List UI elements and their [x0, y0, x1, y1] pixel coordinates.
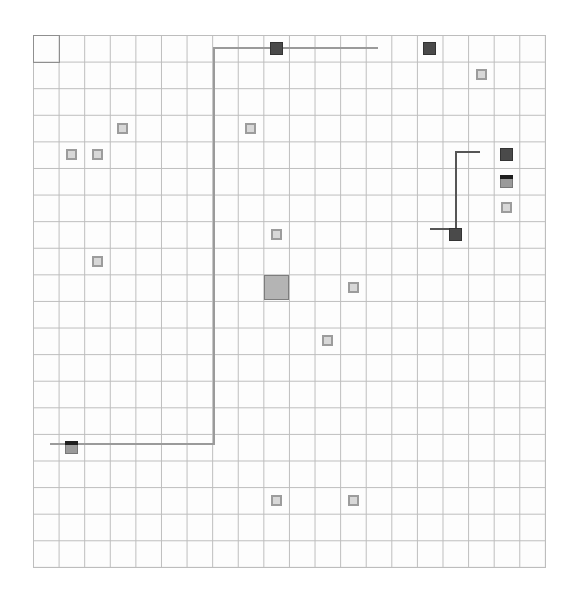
tile-marker[interactable]: [322, 335, 333, 346]
tile-marker[interactable]: [476, 69, 487, 80]
tile-marker[interactable]: [500, 148, 513, 161]
tile-marker[interactable]: [270, 42, 283, 55]
tile-marker[interactable]: [271, 495, 282, 506]
tile-marker[interactable]: [348, 282, 359, 293]
path-segment: [213, 47, 215, 445]
tile-marker[interactable]: [245, 123, 256, 134]
tile-marker[interactable]: [423, 42, 436, 55]
tile-marker[interactable]: [92, 256, 103, 267]
path-segment: [455, 151, 457, 230]
start-cell[interactable]: [33, 35, 60, 63]
tile-marker[interactable]: [65, 441, 78, 454]
tile-marker[interactable]: [66, 149, 77, 160]
tile-marker[interactable]: [449, 228, 462, 241]
tile-marker[interactable]: [500, 175, 513, 188]
tile-marker[interactable]: [92, 149, 103, 160]
path-segment: [213, 47, 378, 49]
tile-marker[interactable]: [117, 123, 128, 134]
large-block[interactable]: [264, 275, 289, 300]
game-board[interactable]: [33, 35, 546, 568]
tile-marker[interactable]: [348, 495, 359, 506]
path-segment: [455, 151, 480, 153]
tile-marker[interactable]: [271, 229, 282, 240]
tile-marker[interactable]: [501, 202, 512, 213]
